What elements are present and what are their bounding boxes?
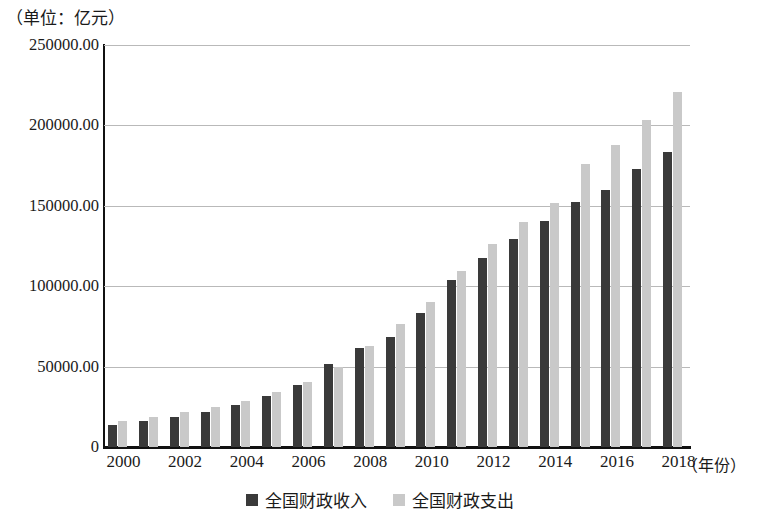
bar-group: [478, 45, 509, 447]
legend-swatch-expenditure-icon: [393, 494, 405, 506]
x-tick-label: 2014: [538, 452, 572, 472]
bar-revenue: [324, 364, 333, 447]
bar-expenditure: [303, 382, 312, 447]
y-tick-label: 100000.00: [3, 278, 99, 294]
bar-expenditure: [118, 421, 127, 447]
plot-area: [104, 45, 690, 447]
bar-group: [139, 45, 170, 447]
bar-expenditure: [180, 412, 189, 447]
bar-expenditure: [149, 417, 158, 447]
x-tick-label: 2000: [106, 452, 140, 472]
x-axis-tick-labels: （年份） 20002002200420062008201020122014201…: [0, 452, 759, 480]
bar-expenditure: [581, 164, 590, 447]
bar-expenditure: [365, 346, 374, 447]
bar-group: [571, 45, 602, 447]
bar-revenue: [601, 190, 610, 447]
legend-label-expenditure: 全国财政支出: [412, 487, 514, 512]
bar-expenditure: [396, 324, 405, 447]
bar-group: [540, 45, 571, 447]
bar-revenue: [201, 412, 210, 447]
bar-revenue: [509, 239, 518, 447]
x-tick-label: 2002: [168, 452, 202, 472]
bar-revenue: [478, 258, 487, 447]
bar-expenditure: [457, 271, 466, 447]
y-tick-label: 250000.00: [3, 37, 99, 53]
bar-revenue: [663, 152, 672, 447]
bar-expenditure: [488, 244, 497, 447]
bar-revenue: [293, 385, 302, 447]
bar-revenue: [416, 313, 425, 447]
bar-group: [108, 45, 139, 447]
bar-expenditure: [519, 222, 528, 447]
y-axis-tick-labels: 050000.00100000.00150000.00200000.002500…: [0, 0, 99, 512]
bar-group: [324, 45, 355, 447]
bar-revenue: [139, 421, 148, 447]
x-tick-label: 2012: [477, 452, 511, 472]
legend-item-revenue: 全国财政收入: [246, 487, 367, 512]
legend-label-revenue: 全国财政收入: [265, 487, 367, 512]
bar-expenditure: [272, 392, 281, 447]
bar-expenditure: [673, 92, 682, 447]
bar-expenditure: [611, 145, 620, 447]
bar-group: [509, 45, 540, 447]
fiscal-bar-chart: （单位：亿元） 050000.00100000.00150000.0020000…: [0, 0, 759, 512]
x-tick-label: 2008: [353, 452, 387, 472]
bar-group: [170, 45, 201, 447]
bar-group: [447, 45, 478, 447]
bar-group: [293, 45, 324, 447]
x-tick-label: 2010: [415, 452, 449, 472]
bar-group: [416, 45, 447, 447]
bar-expenditure: [642, 120, 651, 447]
legend-swatch-revenue-icon: [246, 494, 258, 506]
y-tick-label: 50000.00: [3, 359, 99, 375]
bar-group: [632, 45, 663, 447]
y-tick-label: 200000.00: [3, 117, 99, 133]
bar-expenditure: [241, 401, 250, 447]
chart-legend: 全国财政收入 全国财政支出: [0, 487, 759, 512]
bar-revenue: [632, 169, 641, 447]
x-tick-label: 2018: [662, 452, 696, 472]
bar-group: [386, 45, 417, 447]
bar-revenue: [386, 337, 395, 447]
bar-expenditure: [550, 203, 559, 447]
x-tick-label: 2004: [230, 452, 264, 472]
bar-group: [201, 45, 232, 447]
bar-revenue: [231, 405, 240, 447]
x-tick-label: 2006: [291, 452, 325, 472]
bar-revenue: [447, 280, 456, 447]
bar-group: [601, 45, 632, 447]
legend-item-expenditure: 全国财政支出: [393, 487, 514, 512]
bar-revenue: [571, 202, 580, 447]
bar-expenditure: [334, 367, 343, 447]
bar-revenue: [170, 417, 179, 447]
bar-group: [663, 45, 694, 447]
bar-group: [355, 45, 386, 447]
bar-revenue: [262, 396, 271, 447]
bar-revenue: [108, 425, 117, 447]
x-tick-label: 2016: [600, 452, 634, 472]
bar-revenue: [540, 221, 549, 447]
bar-expenditure: [426, 302, 435, 447]
bar-group: [231, 45, 262, 447]
bar-expenditure: [211, 407, 220, 447]
bar-revenue: [355, 348, 364, 447]
y-tick-label: 150000.00: [3, 198, 99, 214]
bar-group: [262, 45, 293, 447]
